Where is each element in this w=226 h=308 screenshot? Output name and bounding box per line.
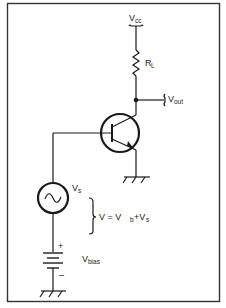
- circuit-diagram: V cc R L V out V: [0, 0, 226, 308]
- vcc-label: V cc: [129, 13, 142, 24]
- npn-transistor-icon: [53, 114, 139, 152]
- svg-text:s: s: [78, 187, 82, 194]
- svg-text:bias: bias: [88, 258, 101, 265]
- resistor-icon: [133, 50, 139, 76]
- vbias-label: V bias: [82, 254, 101, 265]
- svg-text:L: L: [151, 62, 155, 69]
- vout-label: V out: [168, 94, 183, 105]
- vs-label: V s: [72, 183, 82, 194]
- svg-text:+V: +V: [134, 212, 145, 222]
- ac-source-icon: [38, 183, 68, 213]
- plus-sign: +: [58, 241, 63, 251]
- svg-text:cc: cc: [135, 17, 142, 24]
- rl-label: R L: [145, 58, 155, 69]
- vout-terminal-icon: [164, 94, 165, 106]
- figure-frame: [8, 4, 220, 302]
- vcc-terminal-icon: [129, 25, 143, 26]
- svg-text:V = V: V = V: [99, 212, 121, 222]
- equation-label: V = V b +V s: [99, 212, 150, 223]
- ground-icon: [40, 291, 66, 297]
- battery-icon: [43, 253, 63, 268]
- minus-sign: –: [59, 270, 64, 280]
- brace-icon: [89, 198, 96, 234]
- svg-text:out: out: [174, 98, 183, 105]
- svg-text:s: s: [146, 216, 150, 223]
- ground-icon: [123, 177, 150, 183]
